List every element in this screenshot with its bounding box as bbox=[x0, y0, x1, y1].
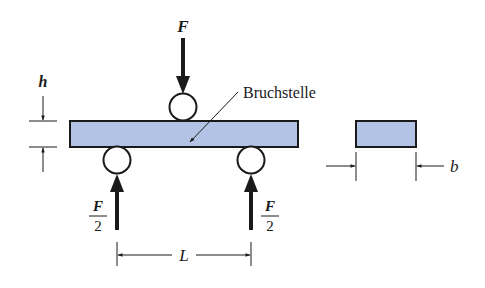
three-point-bending-diagram: F Bruchstelle F 2 F 2 L h bbox=[0, 0, 485, 288]
span-dimension: L bbox=[117, 242, 251, 266]
height-dimension: h bbox=[29, 73, 57, 172]
left-reaction-numerator: F bbox=[92, 198, 103, 214]
right-reaction-numerator: F bbox=[264, 198, 275, 214]
right-reaction-denominator: 2 bbox=[266, 218, 274, 234]
load-roller bbox=[170, 94, 197, 121]
specimen-beam bbox=[70, 121, 298, 147]
fracture-point-label: Bruchstelle bbox=[243, 84, 316, 101]
right-support-roller bbox=[238, 147, 265, 174]
width-dimension: b bbox=[326, 152, 459, 181]
force-label: F bbox=[176, 17, 189, 36]
height-label: h bbox=[39, 73, 48, 90]
span-label: L bbox=[178, 246, 188, 265]
cross-section bbox=[356, 121, 416, 147]
left-support-roller bbox=[104, 147, 131, 174]
left-reaction-denominator: 2 bbox=[94, 218, 102, 234]
left-reaction-arrow: F 2 bbox=[89, 174, 124, 234]
load-force-arrow: F bbox=[176, 17, 190, 94]
right-reaction-arrow: F 2 bbox=[244, 174, 279, 234]
width-label: b bbox=[450, 157, 459, 176]
